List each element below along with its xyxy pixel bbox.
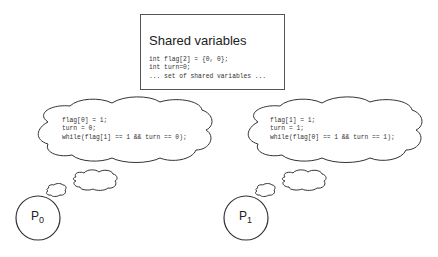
- p1-code-line: while(flag[0] == 1 && turn == 1);: [270, 134, 395, 142]
- p1-code-line: flag[1] = 1;: [270, 117, 395, 125]
- p0-code-line: turn = 0;: [62, 125, 187, 133]
- p1-code: flag[1] = 1;turn = 1;while(flag[0] == 1 …: [270, 117, 395, 142]
- p0-code-line: flag[0] = 1;: [62, 117, 187, 125]
- shared-line: ... set of shared variables ...: [149, 73, 266, 81]
- process-name: P: [31, 209, 39, 223]
- process-p1-label: P1: [239, 209, 252, 225]
- shared-line: int turn=0;: [149, 64, 266, 72]
- p0-code: flag[0] = 1;turn = 0;while(flag[1] == 1 …: [62, 117, 187, 142]
- process-name: P: [239, 209, 247, 223]
- p0-code-line: while(flag[1] == 1 && turn == 0);: [62, 134, 187, 142]
- shared-variables-box: Shared variables int flag[2] = {0, 0};in…: [140, 14, 285, 90]
- process-p0-label: P0: [31, 209, 44, 225]
- thought-bubble-medium-p0: [73, 170, 117, 191]
- shared-line: int flag[2] = {0, 0};: [149, 56, 266, 64]
- p1-code-line: turn = 1;: [270, 125, 395, 133]
- process-index: 1: [247, 215, 252, 225]
- thought-bubble-small-p1: [256, 184, 275, 197]
- thought-bubble-medium-p1: [282, 170, 326, 191]
- thought-bubble-small-p0: [47, 184, 66, 197]
- shared-variables-code: int flag[2] = {0, 0};int turn=0;... set …: [149, 56, 266, 81]
- process-index: 0: [39, 215, 44, 225]
- shared-variables-title: Shared variables: [149, 33, 247, 48]
